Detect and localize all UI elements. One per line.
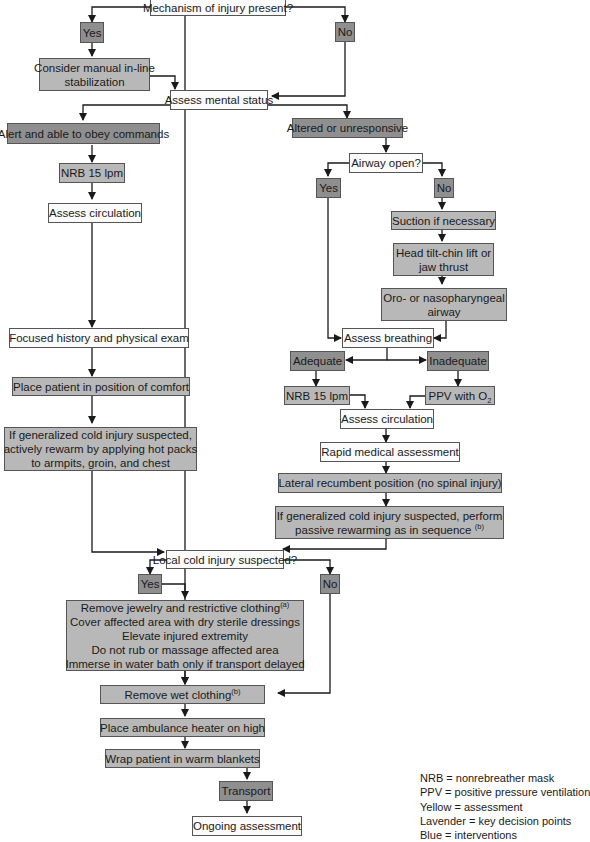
airway-open-question: Airway open?: [349, 153, 423, 173]
assess-breathing: Assess breathing: [342, 328, 434, 348]
mechanism-no: No: [335, 22, 355, 42]
assess-circulation-left: Assess circulation: [48, 203, 142, 223]
legend-item: NRB = nonrebreather mask: [420, 771, 590, 785]
mechanism-yes: Yes: [80, 22, 104, 43]
airway-no: No: [434, 178, 454, 198]
suction-box: Suction if necessary: [391, 211, 496, 230]
nrb-right-box: NRB 15 lpm: [284, 386, 350, 405]
focused-history-box: Focused history and physical exam: [9, 328, 189, 348]
local-care-box: Remove jewelry and restrictive clothing(…: [66, 600, 304, 671]
passive-rewarm-box: If generalized cold injury suspected, pe…: [275, 506, 504, 539]
head-tilt-box: Head tilt-chin lift or jaw thrust: [393, 243, 494, 276]
legend-item: Lavender = key decision points: [420, 814, 590, 828]
ppv-box: PPV with O2: [425, 386, 495, 405]
airway-yes: Yes: [316, 178, 341, 198]
transport-box: Transport: [219, 781, 273, 801]
breathing-adequate: Adequate: [290, 351, 345, 371]
rapid-medical-assessment: Rapid medical assessment: [320, 442, 460, 462]
inline-stabilization-box: Consider manual in-line stabilization: [39, 58, 150, 91]
oropharyngeal-airway-box: Oro- or nasopharyngeal airway: [381, 288, 507, 321]
active-rewarm-box: If generalized cold injury suspected, ac…: [4, 427, 197, 471]
lateral-recumbent-box: Lateral recumbent position (no spinal in…: [278, 473, 502, 493]
local-cold-question: Local cold injury suspected?: [166, 550, 284, 569]
legend-item: Blue = interventions: [420, 828, 590, 842]
nrb-left-box: NRB 15 lpm: [59, 163, 125, 183]
legend: NRB = nonrebreather mask PPV = positive …: [420, 771, 590, 842]
legend-item: Yellow = assessment: [420, 800, 590, 814]
local-cold-yes: Yes: [138, 574, 162, 594]
ongoing-assessment-box: Ongoing assessment: [192, 816, 302, 836]
breathing-inadequate: Inadequate: [427, 351, 489, 371]
mechanism-of-injury-question: Mechanism of injury present?: [150, 0, 286, 16]
local-cold-no: No: [320, 574, 340, 594]
remove-wet-clothing-box: Remove wet clothing(b): [100, 685, 265, 704]
position-comfort-box: Place patient in position of comfort: [12, 377, 190, 396]
warm-blankets-box: Wrap patient in warm blankets: [105, 749, 260, 768]
legend-item: PPV = positive pressure ventilation: [420, 785, 590, 799]
altered-unresponsive-box: Altered or unresponsive: [292, 118, 403, 138]
alert-and-obeys-box: Alert and able to obey commands: [7, 123, 160, 144]
ambulance-heater-box: Place ambulance heater on high: [100, 718, 265, 737]
assess-circulation-right: Assess circulation: [340, 409, 434, 429]
assess-mental-status: Assess mental status: [170, 90, 268, 110]
